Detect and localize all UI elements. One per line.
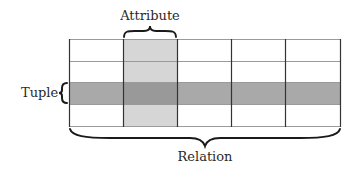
relational-model-diagram: Attribute Tuple Relation [0,0,361,171]
relation-label: Relation [178,150,233,163]
relation-brace-icon [70,129,340,146]
tuple-row-fill [69,82,340,104]
grid-row-lines [69,40,340,127]
attribute-label: Attribute [120,9,180,22]
tuple-brace-icon [59,83,67,103]
tuple-label: Tuple [21,86,58,99]
attribute-brace-icon [124,26,176,37]
attribute-tuple-intersection [123,82,177,104]
